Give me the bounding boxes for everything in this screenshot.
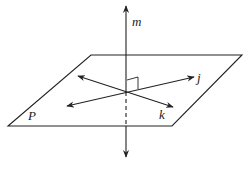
right-angle-marker (127, 77, 138, 89)
perpendicular-line-plane-diagram: m j k P (0, 0, 252, 171)
label-j: j (195, 70, 201, 85)
line-j (67, 77, 194, 106)
label-p: P (27, 108, 36, 123)
plane-p (8, 55, 242, 126)
label-m: m (132, 14, 141, 29)
label-k: k (159, 107, 165, 122)
